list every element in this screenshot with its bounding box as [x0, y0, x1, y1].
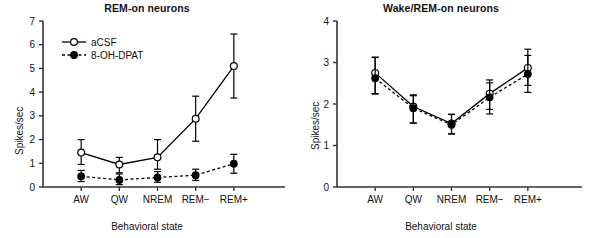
legend-label-aCSF: aCSF	[91, 37, 117, 48]
marker-filled-circle	[192, 172, 199, 179]
x-tick-label: REM−	[476, 194, 504, 205]
marker-open-circle	[192, 115, 199, 122]
y-tick-label: 1	[323, 140, 329, 151]
figure-container: REM-on neurons Spikes/sec Behavioral sta…	[0, 0, 589, 238]
x-tick-label: QW	[111, 194, 129, 205]
marker-filled-circle	[448, 121, 455, 128]
x-tick-label: QW	[405, 194, 423, 205]
y-tick-label: 1	[29, 158, 35, 169]
marker-filled-circle	[78, 173, 85, 180]
x-tick-label: REM+	[220, 194, 248, 205]
y-tick-label: 7	[29, 16, 35, 27]
marker-open-circle	[230, 63, 237, 70]
x-tick-label: AW	[73, 194, 89, 205]
marker-filled-circle	[116, 177, 123, 184]
y-tick-label: 5	[29, 63, 35, 74]
y-tick-label: 2	[323, 99, 329, 110]
x-tick-label: NREM	[143, 194, 172, 205]
y-tick-label: 4	[323, 16, 329, 27]
legend-label-8-OH-DPAT: 8-OH-DPAT	[91, 50, 143, 61]
y-tick-label: 3	[29, 110, 35, 121]
legend-marker-filled-circle	[71, 52, 78, 59]
y-tick-label: 0	[29, 182, 35, 193]
plot-area-right: 01234AWQWNREMREM−REM+	[294, 0, 588, 238]
marker-filled-circle	[525, 71, 532, 78]
plot-area-left: 01234567AWQWNREMREM−REM+aCSF8-OH-DPAT	[0, 0, 294, 238]
marker-open-circle	[116, 161, 123, 168]
marker-filled-circle	[372, 75, 379, 82]
y-tick-label: 6	[29, 39, 35, 50]
marker-filled-circle	[410, 105, 417, 112]
x-tick-label: REM−	[182, 194, 210, 205]
panel-rem-on: REM-on neurons Spikes/sec Behavioral sta…	[0, 0, 294, 238]
x-tick-label: REM+	[514, 194, 542, 205]
legend-marker-open-circle	[71, 39, 78, 46]
x-tick-label: NREM	[437, 194, 466, 205]
panel-wake-rem-on: Wake/REM-on neurons Spikes/sec Behaviora…	[294, 0, 588, 238]
y-tick-label: 0	[323, 182, 329, 193]
y-tick-label: 3	[323, 57, 329, 68]
x-tick-label: AW	[367, 194, 383, 205]
marker-open-circle	[154, 154, 161, 161]
marker-filled-circle	[154, 174, 161, 181]
y-tick-label: 4	[29, 87, 35, 98]
marker-open-circle	[78, 149, 85, 156]
marker-filled-circle	[231, 160, 238, 167]
marker-filled-circle	[486, 94, 493, 101]
y-tick-label: 2	[29, 134, 35, 145]
